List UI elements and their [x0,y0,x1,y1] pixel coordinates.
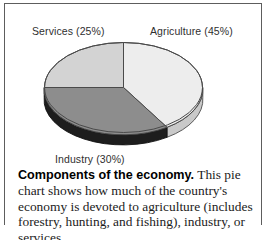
pie-label-services: Services (25%) [32,25,105,37]
caption-lead-in: Components of the economy. [18,168,194,182]
figure-caption: Components of the economy. This pie char… [18,167,259,223]
figure-frame: Services (25%) Agriculture (45%) Industr… [4,3,262,223]
chart-area: Services (25%) Agriculture (45%) Industr… [10,8,266,166]
pie-label-agriculture: Agriculture (45%) [150,25,233,37]
pie-label-industry: Industry (30%) [55,153,125,165]
pie-slice-services [45,43,124,88]
pie-chart-figure: Services (25%) Agriculture (45%) Industr… [0,0,275,223]
